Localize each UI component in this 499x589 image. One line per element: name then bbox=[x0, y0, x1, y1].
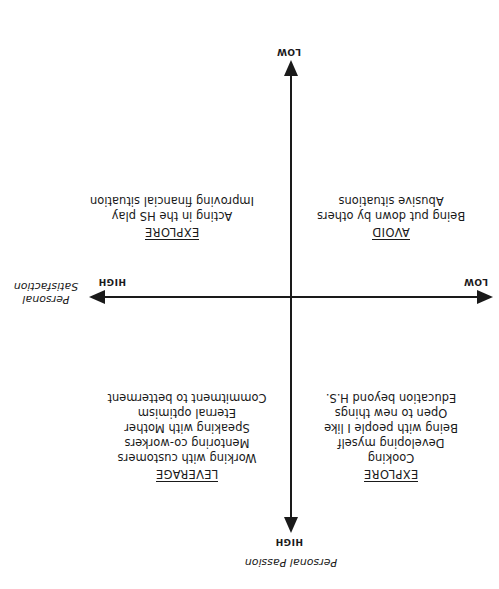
quadrant-heading: LEVERAGE bbox=[156, 467, 219, 482]
quadrant-item: Working with customers bbox=[87, 450, 287, 465]
horizontal-axis-low-label: LOW bbox=[464, 277, 489, 287]
quadrant-item: Speaking with Mother bbox=[87, 420, 287, 435]
quadrant-item: Acting in the HS play bbox=[57, 208, 287, 223]
vertical-axis-low-label: LOW bbox=[277, 47, 302, 57]
quadrant-item: Cooking bbox=[301, 450, 481, 465]
quadrant-avoid: AVOID Being put down by others Abusive s… bbox=[301, 193, 481, 240]
passion-satisfaction-matrix: Personal Passion HIGH LOW LOW HIGH Perso… bbox=[0, 0, 499, 589]
horizontal-axis-arrow-right-icon bbox=[89, 290, 105, 304]
quadrant-item: Eternal optimism bbox=[87, 405, 287, 420]
quadrant-item: Open to new things bbox=[301, 405, 481, 420]
vertical-axis-line bbox=[290, 71, 292, 519]
horizontal-axis-line bbox=[101, 296, 481, 298]
quadrant-item: Commitment to betterment bbox=[87, 390, 287, 405]
horizontal-axis-title-line2: Satisfaction bbox=[11, 280, 81, 293]
quadrant-heading: EXPLORE bbox=[364, 467, 419, 482]
quadrant-item: Abusive situations bbox=[301, 193, 481, 208]
horizontal-axis-high-label: HIGH bbox=[98, 277, 126, 287]
quadrant-item: Improving financial situation bbox=[57, 193, 287, 208]
quadrant-item: Mentoring co-workers bbox=[87, 435, 287, 450]
horizontal-axis-title-line1: Personal bbox=[11, 293, 81, 306]
quadrant-explore-bottom-right: EXPLORE Acting in the HS play Improving … bbox=[57, 193, 287, 240]
quadrant-item: Being put down by others bbox=[301, 208, 481, 223]
quadrant-heading: AVOID bbox=[372, 225, 410, 240]
vertical-axis-title: Personal Passion bbox=[241, 556, 341, 569]
quadrant-item: Education beyond H.S. bbox=[301, 390, 481, 405]
quadrant-heading: EXPLORE bbox=[145, 225, 200, 240]
quadrant-explore-top-left: EXPLORE Cooking Developing myself Being … bbox=[301, 390, 481, 482]
vertical-axis-arrow-up-icon bbox=[284, 517, 298, 533]
vertical-axis-arrow-down-icon bbox=[284, 60, 298, 76]
horizontal-axis-title: Personal Satisfaction bbox=[11, 280, 81, 306]
quadrant-leverage: LEVERAGE Working with customers Mentorin… bbox=[87, 390, 287, 482]
vertical-axis-high-label: HIGH bbox=[275, 537, 303, 547]
quadrant-item: Being with people I like bbox=[301, 420, 481, 435]
quadrant-item: Developing myself bbox=[301, 435, 481, 450]
